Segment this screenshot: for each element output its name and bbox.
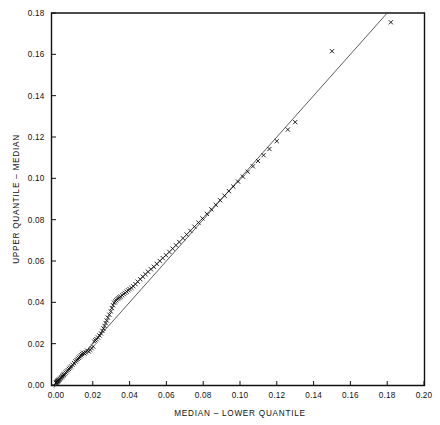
plot-border: [52, 13, 425, 386]
x-tick-label: 0.02: [84, 391, 101, 400]
y-tick-label: 0.00: [28, 381, 45, 390]
x-tick-label: 0.18: [379, 391, 396, 400]
plot-canvas: 0.000.020.040.060.080.100.120.140.160.18…: [0, 0, 440, 425]
x-tick-label: 0.10: [232, 391, 249, 400]
data-point: [275, 139, 279, 143]
y-tick-label: 0.04: [28, 298, 45, 307]
data-point: [181, 236, 185, 240]
x-tick-label: 0.06: [158, 391, 175, 400]
plot-frame: [52, 13, 425, 386]
data-point: [261, 153, 265, 157]
data-point: [196, 220, 200, 224]
y-axis-label: UPPER QUANTILE – MEDIAN: [12, 134, 21, 264]
data-point: [286, 127, 290, 131]
data-point: [256, 159, 260, 163]
data-point: [185, 232, 189, 236]
y-tick-label: 0.08: [28, 216, 45, 225]
y-tick-label: 0.14: [28, 92, 45, 101]
y-tick-label: 0.02: [28, 340, 45, 349]
data-point: [293, 120, 297, 124]
x-tick-label: 0.20: [416, 391, 433, 400]
data-point: [214, 203, 218, 207]
x-tick-label: 0.12: [268, 391, 285, 400]
data-point: [231, 185, 235, 189]
data-point: [177, 240, 181, 244]
x-tick-label: 0.08: [195, 391, 212, 400]
data-point: [251, 164, 255, 168]
data-point: [389, 20, 393, 24]
data-point: [91, 344, 95, 348]
x-tick-label: 0.00: [48, 391, 65, 400]
x-tick-label: 0.14: [305, 391, 322, 400]
data-point: [222, 194, 226, 198]
x-axis-ticks: 0.000.020.040.060.080.100.120.140.160.18…: [48, 381, 433, 400]
data-point: [218, 198, 222, 202]
data-point: [227, 189, 231, 193]
data-point: [85, 349, 89, 353]
scatter-plot-figure: 0.000.020.040.060.080.100.120.140.160.18…: [0, 0, 440, 425]
x-tick-label: 0.16: [342, 391, 359, 400]
data-point: [330, 49, 334, 53]
x-axis-label: MEDIAN – LOWER QUANTILE: [174, 409, 305, 418]
y-tick-label: 0.18: [28, 9, 45, 18]
y-tick-label: 0.10: [28, 174, 45, 183]
y-tick-label: 0.06: [28, 257, 45, 266]
x-tick-label: 0.04: [121, 391, 138, 400]
data-point: [192, 225, 196, 229]
y-tick-label: 0.12: [28, 133, 45, 142]
data-point: [188, 229, 192, 233]
y-tick-label: 0.16: [28, 50, 45, 59]
data-point: [267, 147, 271, 151]
